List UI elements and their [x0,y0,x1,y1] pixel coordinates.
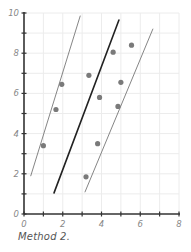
scatter-chart: 024680246810 [0,0,191,252]
x-tick-label: 2 [60,219,65,229]
data-point [53,107,58,112]
data-point [118,80,123,85]
tick-labels: 024680246810 [8,8,182,229]
upper-boundary [31,16,80,176]
y-tick-label: 0 [14,209,19,219]
y-tick-label: 10 [8,8,19,18]
data-point [111,50,116,55]
data-point [41,143,46,148]
fit-line [54,20,119,193]
y-tick-label: 8 [14,48,20,58]
data-point [129,43,134,48]
y-tick-label: 6 [14,88,20,98]
x-tick-label: 8 [176,219,182,229]
data-point [59,82,64,87]
data-point [86,73,91,78]
data-point [83,174,88,179]
grid-lines [24,13,179,214]
data-points [41,43,134,180]
y-tick-label: 2 [14,169,19,179]
data-point [115,104,120,109]
axes [22,12,181,217]
x-tick-label: 0 [21,219,26,229]
data-point [95,141,100,146]
y-tick-label: 4 [14,129,19,139]
reference-lines [31,16,153,193]
x-tick-label: 6 [138,219,144,229]
chart-caption: Method 2. [18,231,70,242]
x-tick-label: 4 [99,219,104,229]
data-point [97,95,102,100]
